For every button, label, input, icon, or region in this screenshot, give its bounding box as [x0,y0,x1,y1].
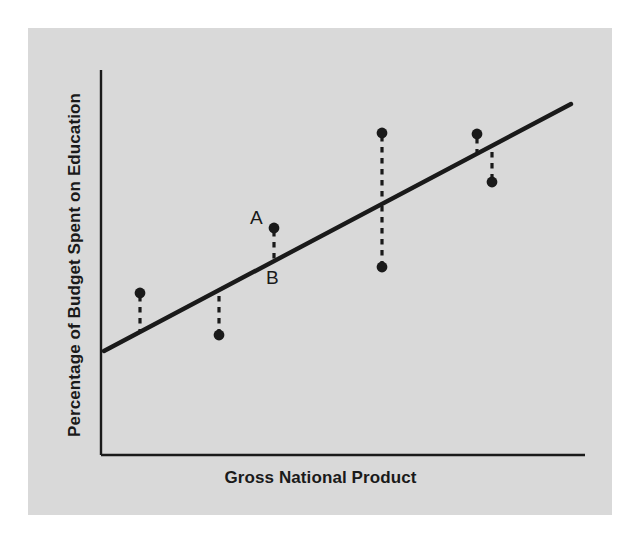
data-point-4-upper [377,128,388,139]
annotation-b: B [266,268,279,287]
y-axis-title: Percentage of Budget Spent on Education [65,35,85,495]
data-point-5-upper [472,129,483,140]
figure-page: A B Gross National Product Percentage of… [0,0,641,538]
data-point-2 [214,330,225,341]
data-point-4-lower [377,262,388,273]
data-point-6-lower [487,177,498,188]
data-point-1 [135,288,146,299]
regression-line [104,104,571,351]
plot-area [0,0,641,538]
data-point-a [269,223,280,234]
annotation-a: A [250,208,263,227]
x-axis-title: Gross National Product [0,468,641,488]
